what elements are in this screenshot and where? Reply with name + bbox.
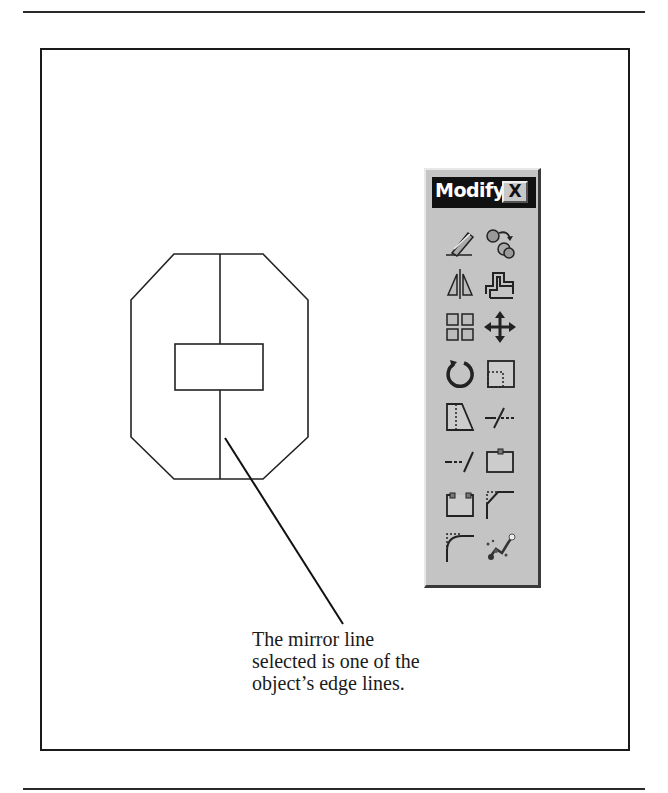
modify-toolbar: Modify X xyxy=(424,168,541,588)
fillet-button[interactable] xyxy=(442,529,478,565)
stretch-button[interactable] xyxy=(442,399,478,435)
mirror-icon xyxy=(442,266,478,302)
caption-text: The mirror line selected is one of the o… xyxy=(252,628,420,694)
scale-icon xyxy=(482,356,518,392)
close-button[interactable]: X xyxy=(502,181,528,203)
leader-line xyxy=(225,438,343,624)
chamfer-icon xyxy=(482,486,518,522)
caption-line: selected is one of the xyxy=(252,650,420,672)
caption-line: object’s edge lines. xyxy=(252,672,420,694)
toolbar-title-bar[interactable]: Modify X xyxy=(432,177,536,208)
fillet-icon xyxy=(442,529,478,565)
move-icon xyxy=(482,309,518,345)
stretch-icon xyxy=(442,399,478,435)
break-at-point-icon xyxy=(482,443,518,479)
break-icon xyxy=(442,486,478,522)
copy-button[interactable] xyxy=(482,225,518,261)
copy-object-icon xyxy=(482,225,518,261)
chamfer-button[interactable] xyxy=(482,486,518,522)
extend-icon xyxy=(442,443,478,479)
break-button[interactable] xyxy=(442,486,478,522)
toolbar-title: Modify xyxy=(435,179,505,201)
trim-button[interactable] xyxy=(482,399,518,435)
eraser-icon xyxy=(442,225,478,261)
explode-button[interactable] xyxy=(482,529,518,565)
erase-button[interactable] xyxy=(442,225,478,261)
offset-icon xyxy=(482,266,518,302)
scale-button[interactable] xyxy=(482,356,518,392)
array-icon xyxy=(442,309,478,345)
explode-icon xyxy=(482,529,518,565)
caption-line: The mirror line xyxy=(252,628,420,650)
extend-button[interactable] xyxy=(442,443,478,479)
rotate-icon xyxy=(442,356,478,392)
rotate-button[interactable] xyxy=(442,356,478,392)
inner-rectangle xyxy=(175,344,263,390)
break-at-point-button[interactable] xyxy=(482,443,518,479)
offset-button[interactable] xyxy=(482,266,518,302)
trim-icon xyxy=(482,399,518,435)
array-button[interactable] xyxy=(442,309,478,345)
move-button[interactable] xyxy=(482,309,518,345)
mirror-button[interactable] xyxy=(442,266,478,302)
